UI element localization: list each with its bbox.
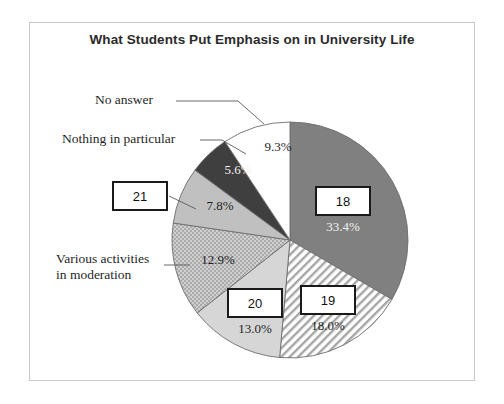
leader-line-no-answer bbox=[176, 101, 264, 124]
label-various-activities-line2: in moderation bbox=[56, 267, 131, 282]
value-box-21: 21 bbox=[112, 181, 168, 211]
percent-label-no-answer: 9.3% bbox=[254, 139, 302, 155]
percent-label-21: 7.8% bbox=[196, 198, 244, 214]
percent-label-19: 18.0% bbox=[300, 318, 356, 334]
label-nothing-in-particular: Nothing in particular bbox=[62, 131, 175, 147]
label-various-activities: Various activities in moderation bbox=[56, 251, 164, 283]
value-box-18: 18 bbox=[315, 186, 371, 216]
pie-chart-figure: What Students Put Emphasis on in Univers… bbox=[0, 0, 504, 404]
label-various-activities-line1: Various activities bbox=[56, 251, 149, 266]
pie-slices-group bbox=[172, 122, 408, 358]
percent-label-nothing-in-particular: 5.6% bbox=[214, 162, 262, 178]
percent-label-various-activities: 12.9% bbox=[190, 252, 246, 268]
value-box-19: 19 bbox=[300, 285, 356, 315]
percent-label-20: 13.0% bbox=[227, 321, 283, 337]
label-no-answer: No answer bbox=[95, 92, 153, 108]
pie-graphic bbox=[0, 0, 504, 404]
value-box-20: 20 bbox=[227, 288, 283, 318]
percent-label-18: 33.4% bbox=[315, 219, 371, 235]
